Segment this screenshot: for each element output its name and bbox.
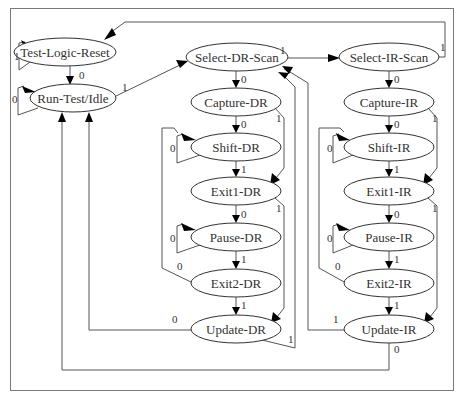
state-node-rti: Run-Test/Idle [30, 84, 116, 112]
arrow-head-icon [176, 60, 188, 68]
state-node-cdr: Capture-DR [191, 88, 281, 116]
nodes: Test-Logic-ResetRun-Test/IdleSelect-DR-S… [14, 38, 439, 343]
state-node-e2dr: Exit2-DR [191, 269, 281, 297]
transition-label: 1 [394, 163, 400, 175]
transition-label: 0 [394, 208, 400, 220]
state-label: Pause-DR [210, 230, 263, 245]
arrow-head-icon [181, 223, 196, 231]
state-node-e2ir: Exit2-IR [344, 269, 434, 297]
state-label: Shift-DR [212, 140, 260, 155]
edge-e1ir-uir [428, 198, 437, 317]
state-label: Run-Test/Idle [37, 91, 109, 106]
state-label: Capture-DR [204, 95, 268, 110]
transition-label: 1 [394, 253, 400, 265]
arrow-head-icon [385, 307, 393, 315]
arrow-head-icon [232, 169, 240, 177]
state-label: Capture-IR [360, 95, 419, 110]
transition-label: 1 [241, 163, 247, 175]
transition-label: 0 [241, 73, 247, 85]
arrow-head-icon [336, 223, 350, 231]
arrow-head-icon [232, 215, 240, 223]
transition-label: 0 [172, 313, 178, 325]
transition-label: 1 [432, 202, 438, 214]
arrow-head-icon [385, 125, 393, 133]
transition-label: 1 [276, 202, 282, 214]
edge-uir-sdr [284, 69, 344, 330]
arrow-head-icon [181, 133, 196, 141]
state-node-e1ir: Exit1-IR [344, 177, 434, 205]
arrow-head-icon [232, 307, 240, 315]
arrow-head-icon [328, 54, 340, 62]
arrow-head-icon [385, 80, 393, 88]
arrow-head-icon [385, 169, 393, 177]
arrow-head-icon [85, 112, 93, 122]
state-node-pir: Pause-IR [344, 223, 434, 251]
state-node-e1dr: Exit1-DR [191, 177, 281, 205]
state-label: Select-DR-Scan [195, 50, 279, 65]
arrow-head-icon [336, 133, 350, 141]
transition-label: 0 [394, 118, 400, 130]
transition-label: 0 [394, 343, 400, 355]
state-node-shdr: Shift-DR [191, 133, 281, 161]
transition-label: 1 [241, 299, 247, 311]
transition-label: 1 [14, 50, 20, 62]
transition-label: 0 [79, 69, 85, 81]
state-node-cir: Capture-IR [344, 88, 434, 116]
edge-udr-rti [89, 120, 191, 330]
transition-label: 0 [12, 93, 18, 105]
state-node-sir: Select-IR-Scan [339, 43, 439, 71]
state-label: Pause-IR [365, 230, 413, 245]
arrow-head-icon [232, 261, 240, 269]
transition-label: 1 [122, 81, 128, 93]
state-label: Exit1-IR [366, 184, 412, 199]
state-node-uir: Update-IR [344, 315, 434, 343]
transition-label: 0 [170, 232, 176, 244]
transition-label: 1 [394, 299, 400, 311]
transition-label: 0 [170, 142, 176, 154]
transition-label: 1 [333, 313, 339, 325]
state-label: Test-Logic-Reset [20, 45, 110, 60]
transition-label: 0 [335, 260, 341, 272]
transition-label: 1 [288, 333, 294, 345]
state-node-tlr: Test-Logic-Reset [14, 38, 116, 66]
transition-label: 0 [177, 260, 183, 272]
state-label: Shift-IR [368, 140, 411, 155]
arrow-head-icon [278, 72, 289, 79]
state-node-sdr: Select-DR-Scan [186, 43, 288, 71]
transition-label: 1 [432, 112, 438, 124]
transition-label: 0 [241, 118, 247, 130]
arrow-head-icon [232, 125, 240, 133]
state-node-shir: Shift-IR [344, 133, 434, 161]
state-label: Update-IR [362, 322, 417, 337]
arrow-head-icon [385, 215, 393, 223]
state-label: Update-DR [206, 322, 266, 337]
transition-label: 0 [241, 208, 247, 220]
state-node-udr: Update-DR [191, 315, 281, 343]
arrow-head-icon [385, 261, 393, 269]
tap-state-diagram: Test-Logic-ResetRun-Test/IdleSelect-DR-S… [0, 0, 461, 397]
transition-label: 0 [327, 142, 333, 154]
transition-label: 1 [241, 253, 247, 265]
transition-label: 1 [276, 112, 282, 124]
transition-label: 0 [327, 232, 333, 244]
transition-label: 0 [394, 73, 400, 85]
arrow-head-icon [58, 112, 66, 122]
state-node-pdr: Pause-DR [191, 223, 281, 251]
transition-label: 1 [440, 41, 446, 53]
transition-label: 1 [280, 44, 286, 56]
state-label: Select-IR-Scan [350, 50, 429, 65]
arrow-head-icon [232, 80, 240, 88]
state-label: Exit2-DR [211, 276, 262, 291]
edge-e1dr-udr [275, 198, 284, 317]
state-label: Exit1-DR [211, 184, 262, 199]
state-label: Exit2-IR [366, 276, 412, 291]
